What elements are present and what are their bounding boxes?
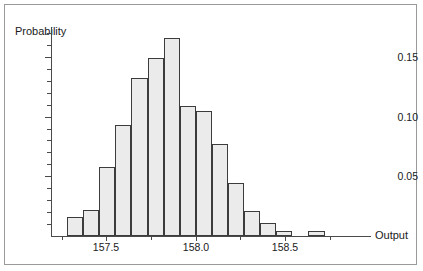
histogram-bar [164,38,180,236]
histogram-bar [148,58,164,236]
histogram-bar [115,125,131,236]
histogram-bar [131,78,147,236]
histogram-bar [228,183,244,236]
histogram-bars [5,5,418,266]
histogram-bar [260,223,276,236]
histogram-bar [244,211,260,236]
histogram-bar [212,144,228,236]
figure-frame: Probability Output 0.050.100.15 157.5158… [4,4,417,265]
histogram-bar [196,111,212,236]
histogram-bar [99,167,115,236]
histogram-bar [180,106,196,236]
chart-plot-area: Probability Output 0.050.100.15 157.5158… [5,5,418,266]
histogram-bar [276,231,292,236]
histogram-bar [67,217,83,236]
histogram-bar [308,231,324,236]
histogram-bar [83,210,99,236]
